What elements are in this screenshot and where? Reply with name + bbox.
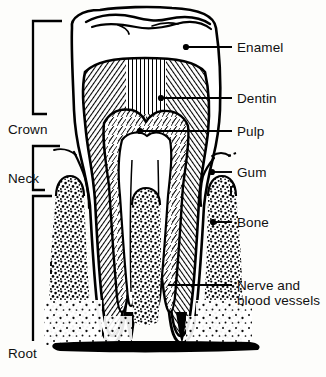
- label-crown: Crown: [8, 122, 48, 137]
- label-nerve-line1: Nerve and: [237, 278, 300, 293]
- label-gum: Gum: [237, 165, 267, 180]
- label-neck: Neck: [8, 171, 39, 186]
- label-enamel: Enamel: [237, 40, 283, 55]
- tooth-diagram-svg: Enamel Dentin Pulp Gum Bone Nerve and bl…: [0, 0, 326, 377]
- label-root: Root: [8, 346, 37, 361]
- tooth-anatomy-diagram: Enamel Dentin Pulp Gum Bone Nerve and bl…: [0, 0, 326, 377]
- gum-fold-left: [54, 149, 76, 155]
- bracket-crown: [33, 21, 62, 114]
- bone-group: [44, 170, 252, 350]
- jaw-base-bar: [52, 341, 259, 352]
- label-pulp: Pulp: [237, 124, 264, 139]
- label-bone: Bone: [237, 215, 269, 230]
- label-dentin: Dentin: [237, 91, 277, 106]
- label-nerve-line2: blood vessels: [237, 293, 320, 308]
- leader-gum: [209, 169, 232, 175]
